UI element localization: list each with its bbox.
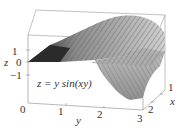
equation-annotation: z = y sin(xy) [37, 78, 92, 89]
y-axis-label: y [76, 115, 81, 126]
x-tick-1: 1 [168, 82, 174, 93]
y-tick-0: 0 [20, 104, 26, 115]
x-tick-2: 2 [148, 104, 154, 115]
z-axis-label: z [4, 57, 8, 68]
y-tick-1: 1 [58, 106, 64, 117]
z-tick-minus1: −1 [10, 70, 22, 81]
y-tick-3: 3 [137, 113, 143, 124]
x-axis-label: x [170, 96, 175, 107]
y-tick-2: 2 [97, 109, 103, 120]
z-tick-0: 0 [16, 57, 22, 68]
surface-plot [0, 0, 188, 133]
